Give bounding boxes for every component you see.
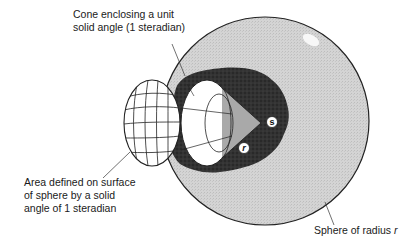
cone-label-line-2: solid angle (1 steradian)	[73, 21, 185, 34]
area-label-line-1: Area defined on surface	[24, 176, 136, 189]
sphere-label: Sphere of radius r	[314, 224, 397, 237]
radius-marker: r	[239, 143, 250, 154]
sphere-label-variable: r	[394, 224, 398, 236]
area-label: Area defined on surface of sphere by a s…	[24, 176, 136, 215]
surface-area-cap	[124, 80, 180, 166]
area-leader-line	[103, 152, 130, 178]
center-marker: s	[267, 117, 278, 128]
radius-marker-label: r	[242, 143, 246, 153]
sphere-leader-line	[325, 202, 334, 225]
cone-label: Cone enclosing a unit solid angle (1 ste…	[73, 8, 185, 34]
cone-label-line-1: Cone enclosing a unit	[73, 8, 185, 21]
center-marker-label: s	[269, 117, 274, 127]
sphere-label-text: Sphere of radius	[314, 224, 394, 236]
area-label-line-3: angle of 1 steradian	[24, 202, 136, 215]
area-label-line-2: of sphere by a solid	[24, 189, 136, 202]
